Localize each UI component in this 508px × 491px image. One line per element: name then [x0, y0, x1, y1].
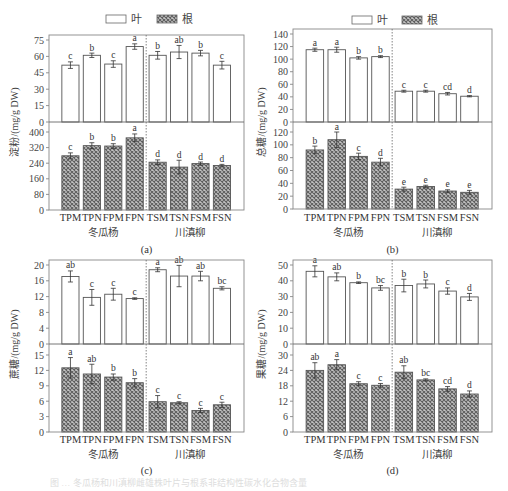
significance-letter: b [423, 270, 428, 280]
x-category-label: FSM [190, 434, 212, 445]
significance-letter: d [198, 152, 203, 162]
leaf-subplot: 048121620abcccaababbc [34, 255, 231, 350]
bar-tpn [83, 55, 100, 122]
y-tick-label: 16 [34, 275, 44, 286]
significance-letter: a [313, 38, 318, 48]
root-subplot: 020406080100120bacdeeee [273, 122, 478, 215]
x-category-label: TPN [82, 212, 102, 223]
bar-tsm [395, 91, 412, 122]
y-tick-label: 100 [273, 54, 288, 65]
significance-letter: d [220, 154, 225, 164]
y-tick-label: 60 [34, 51, 44, 62]
species-group-label: 川滇柳 [175, 226, 205, 238]
panel-starch: 01530456075cbcababbc080160240320400cbbad… [8, 33, 244, 256]
y-tick-label: 20 [278, 191, 288, 202]
x-category-label: FSM [437, 434, 459, 445]
y-tick-label: 0 [283, 339, 288, 350]
y-tick-label: 10 [278, 323, 288, 334]
significance-letter: c [356, 371, 360, 381]
y-tick-label: 45 [34, 67, 44, 78]
bar-tpm [306, 271, 323, 344]
bar-fpm [105, 294, 122, 344]
x-category-label: TSM [147, 434, 169, 445]
y-tick-label: 6 [39, 396, 44, 407]
panel-label: (d) [386, 465, 399, 477]
bar-tpn [328, 50, 345, 122]
significance-letter: a [335, 122, 340, 132]
x-category-label: TPM [60, 434, 82, 445]
panel-label: (a) [141, 244, 153, 256]
bar-fsm [192, 276, 209, 344]
y-tick-label: 12 [34, 291, 44, 302]
bar-tpm [62, 276, 79, 344]
significance-letter: b [356, 271, 361, 281]
y-tick-label: 80 [34, 189, 44, 200]
species-group-label: 冬瓜杨 [333, 448, 363, 460]
y-tick-label: 24 [278, 365, 288, 376]
bar-fpm [105, 64, 122, 122]
y-tick-label: 30 [278, 291, 288, 302]
y-tick-label: 6 [283, 411, 288, 422]
legend-leaf-swatch [106, 15, 126, 23]
y-tick-label: 240 [29, 158, 44, 169]
panel-label: (c) [141, 465, 153, 477]
y-tick-label: 12 [34, 365, 44, 376]
y-tick-label: 4 [39, 323, 44, 334]
significance-letter: b [312, 136, 317, 146]
significance-letter: b [356, 46, 361, 56]
significance-letter: c [220, 51, 224, 61]
significance-letter: cd [443, 82, 452, 92]
significance-letter: b [111, 133, 116, 143]
significance-letter: bc [421, 368, 430, 378]
significance-letter: e [424, 175, 428, 185]
y-axis-label: 淀粉/(mg/g DW) [8, 87, 21, 156]
y-tick-label: 320 [29, 142, 44, 153]
y-tick-label: 40 [278, 91, 288, 102]
bar-tsn [417, 91, 434, 122]
significance-letter: b [89, 132, 94, 142]
y-tick-label: 0 [283, 204, 288, 215]
y-tick-label: 60 [278, 79, 288, 90]
significance-letter: b [198, 40, 203, 50]
bar-tsn [417, 380, 434, 432]
significance-letter: c [198, 398, 202, 408]
significance-letter: e [467, 180, 471, 190]
y-tick-label: 18 [278, 380, 288, 391]
x-category-label: TPM [304, 212, 326, 223]
y-tick-label: 80 [278, 66, 288, 77]
significance-letter: b [132, 368, 137, 378]
bar-tpn [83, 146, 100, 210]
y-tick-label: 120 [273, 41, 288, 52]
bar-fpn [126, 47, 143, 122]
legend-root-swatch [402, 16, 422, 24]
significance-letter: d [467, 85, 472, 95]
y-tick-label: 120 [273, 127, 288, 138]
y-tick-label: 30 [278, 350, 288, 361]
significance-letter: a [68, 347, 73, 357]
x-category-label: FPN [125, 434, 145, 445]
significance-letter: c [378, 373, 382, 383]
significance-letter: b [401, 269, 406, 279]
y-tick-label: 30 [34, 84, 44, 95]
significance-letter: a [335, 349, 340, 359]
significance-letter: b [378, 45, 383, 55]
bar-fpm [105, 146, 122, 210]
panel-label: (b) [386, 244, 399, 256]
significance-letter: ab [66, 260, 75, 270]
bar-tsm [149, 270, 166, 344]
x-category-label: TSM [393, 434, 415, 445]
significance-letter: d [467, 283, 472, 293]
y-tick-label: 100 [273, 139, 288, 150]
significance-letter: c [111, 278, 115, 288]
significance-letter: d [155, 149, 160, 159]
significance-letter: c [90, 279, 94, 289]
significance-letter: cd [443, 376, 452, 386]
significance-letter: e [402, 177, 406, 187]
x-category-label: TSN [169, 212, 189, 223]
root-subplot: 0612182430abaccabbccdd [278, 349, 478, 437]
bar-fsn [213, 65, 230, 122]
y-tick-label: 160 [29, 173, 44, 184]
bar-fpn [126, 138, 143, 210]
y-tick-label: 75 [34, 35, 44, 46]
bar-fpm [350, 283, 367, 344]
